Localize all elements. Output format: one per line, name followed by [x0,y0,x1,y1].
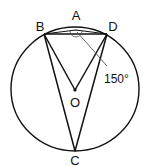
label-b: B [36,19,45,34]
segment-do [75,34,107,90]
geometry-diagram: A B D O C 150° [0,0,147,166]
label-a: A [72,8,81,23]
angle-label: 150° [104,72,129,86]
segment-dc [75,34,107,151]
center-dot [73,88,76,91]
segment-bc [44,34,75,151]
label-o: O [70,95,80,110]
segment-bo [44,34,75,90]
label-d: D [108,19,117,34]
label-c: C [70,153,79,166]
